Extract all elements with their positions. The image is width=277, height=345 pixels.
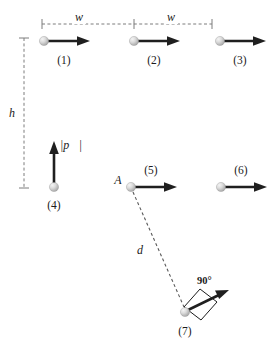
particle-6-ball	[216, 182, 225, 191]
particle-3-vector-head	[253, 36, 266, 46]
particle-6-group: (6)	[216, 164, 267, 192]
particle-6-vector-head	[254, 182, 267, 192]
particle-7-ball	[180, 307, 189, 316]
particle-2-group: (2)	[129, 36, 180, 67]
right-angle-label: 90°	[197, 275, 212, 286]
particle-3-ball	[215, 36, 224, 45]
particle-1-vector-head	[77, 36, 90, 46]
particle-7-vector-head	[215, 290, 229, 299]
particle-4-label: (4)	[47, 199, 61, 212]
particle-6-label: (6)	[234, 164, 248, 177]
particle-5-ball	[126, 182, 135, 191]
w-dimension-group: w w	[42, 10, 212, 29]
physics-diagram-svg: w w h d 90° (1)	[0, 0, 277, 345]
particle-7-group: (7)	[178, 290, 229, 338]
w-dimension-label-2: w	[167, 10, 175, 24]
particle-2-label: (2)	[147, 54, 161, 67]
distance-d-label: d	[137, 243, 144, 257]
particle-3-group: (3)	[215, 36, 266, 67]
particle-4-group: |p⃗| (4)	[47, 138, 82, 212]
physics-diagram-canvas: w w h d 90° (1)	[0, 0, 277, 345]
h-dimension-label: h	[9, 106, 15, 120]
particle-5-vector-head	[164, 182, 177, 192]
particle-7-label: (7)	[178, 325, 192, 338]
distance-d-group: d	[133, 192, 184, 307]
point-a-label: A	[113, 173, 122, 187]
particle-1-group: (1)	[39, 36, 90, 67]
particle-1-ball	[39, 36, 48, 45]
particle-1-label: (1)	[57, 54, 71, 67]
particle-4-ball	[49, 182, 58, 191]
particle-2-vector-head	[167, 36, 180, 46]
momentum-magnitude-label: |p⃗|	[60, 138, 82, 152]
particle-5-label: (5)	[144, 164, 158, 177]
particle-2-ball	[129, 36, 138, 45]
particle-4-vector-head	[49, 141, 59, 154]
h-dimension-group: h	[6, 38, 29, 188]
particle-5-group: A (5)	[113, 164, 177, 192]
w-dimension-label-1: w	[75, 10, 83, 24]
particle-3-label: (3)	[233, 54, 247, 67]
